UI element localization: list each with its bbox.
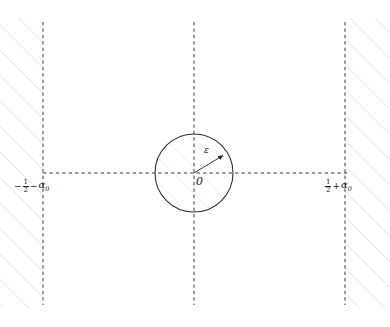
left-label-alpha: α0 <box>39 180 50 193</box>
left-label-denominator: 2 <box>23 187 29 194</box>
right-boundary-label: 12+α0 <box>325 178 352 194</box>
epsilon-radius-label: ε <box>204 146 209 155</box>
origin-label: 0 <box>196 176 203 187</box>
right-label-fraction: 12 <box>325 179 331 194</box>
left-label-minus-sign: − <box>13 182 23 191</box>
right-label-alpha-symbol: α <box>341 179 348 190</box>
left-label-fraction: 12 <box>23 179 29 194</box>
right-label-alpha-subscript: 0 <box>348 185 352 193</box>
left-label-alpha-subscript: 0 <box>45 185 49 193</box>
diagram-canvas <box>0 0 390 327</box>
right-label-alpha: α0 <box>341 180 352 193</box>
right-excluded-region-hatching <box>345 18 390 308</box>
math-diagram-figure: −12−α0 12+α0 ε 0 <box>0 0 390 327</box>
right-label-operator: + <box>331 182 341 191</box>
left-label-operator: − <box>29 182 39 191</box>
left-boundary-label: −12−α0 <box>13 178 49 194</box>
right-label-denominator: 2 <box>325 187 331 194</box>
left-excluded-region-hatching <box>0 18 43 308</box>
